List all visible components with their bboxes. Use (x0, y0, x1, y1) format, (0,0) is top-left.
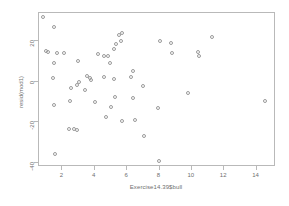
data-point (109, 105, 113, 109)
y-axis-tick-label: 20 (29, 40, 35, 47)
data-point (52, 103, 56, 107)
data-point (69, 86, 73, 90)
data-point (156, 106, 160, 110)
data-point (76, 59, 80, 63)
data-point (120, 119, 124, 123)
y-axis-tick-label: -20 (29, 121, 35, 130)
data-point (114, 42, 118, 46)
data-point (41, 15, 45, 19)
scatter-plot: 2468101214200-20-40 Exercise14.39$bull r… (0, 0, 289, 206)
data-point (62, 51, 66, 55)
data-point (67, 127, 71, 131)
data-point (131, 69, 135, 73)
data-point (104, 115, 108, 119)
data-point (120, 31, 124, 35)
data-point (51, 76, 55, 80)
y-axis-tick-label: -40 (29, 162, 35, 171)
data-point (170, 51, 174, 55)
x-axis-tick (223, 166, 224, 170)
data-point (112, 47, 116, 51)
x-axis-tick (159, 166, 160, 170)
data-point (89, 78, 93, 82)
data-point (46, 50, 50, 54)
x-axis-tick (126, 166, 127, 170)
x-axis-tick-label: 6 (124, 172, 127, 178)
data-point (108, 61, 112, 65)
data-point (102, 75, 106, 79)
data-point (96, 52, 100, 56)
x-axis-tick-label: 2 (60, 172, 63, 178)
x-axis-tick (94, 166, 95, 170)
data-point (133, 118, 137, 122)
data-point (75, 128, 79, 132)
data-point (210, 35, 214, 39)
x-axis-tick-label: 12 (220, 172, 227, 178)
y-axis-tick-label: 0 (29, 81, 35, 84)
data-point (68, 99, 72, 103)
data-point (157, 159, 161, 163)
data-point (112, 77, 116, 81)
x-axis-tick (191, 166, 192, 170)
data-point (119, 39, 123, 43)
data-point (142, 134, 146, 138)
x-axis-label: Exercise14.39$bull (130, 184, 183, 190)
data-point (141, 84, 145, 88)
data-point (93, 100, 97, 104)
data-point (129, 75, 133, 79)
data-point (55, 51, 59, 55)
data-point (106, 54, 110, 58)
data-point (113, 95, 117, 99)
data-point (169, 41, 173, 45)
x-axis-tick-label: 10 (187, 172, 194, 178)
data-point (52, 25, 56, 29)
x-axis-tick (61, 166, 62, 170)
data-point (158, 39, 162, 43)
data-point (197, 54, 201, 58)
x-axis-tick (256, 166, 257, 170)
data-point (75, 83, 79, 87)
data-point (53, 152, 57, 156)
data-point (131, 96, 135, 100)
data-point (83, 88, 87, 92)
data-point (263, 99, 267, 103)
x-axis-tick-label: 14 (252, 172, 259, 178)
x-axis-tick-label: 4 (92, 172, 95, 178)
y-axis-label: resid(mod1) (18, 76, 24, 108)
data-point (52, 61, 56, 65)
data-points-layer (38, 12, 275, 166)
data-point (186, 91, 190, 95)
x-axis-tick-label: 8 (157, 172, 160, 178)
